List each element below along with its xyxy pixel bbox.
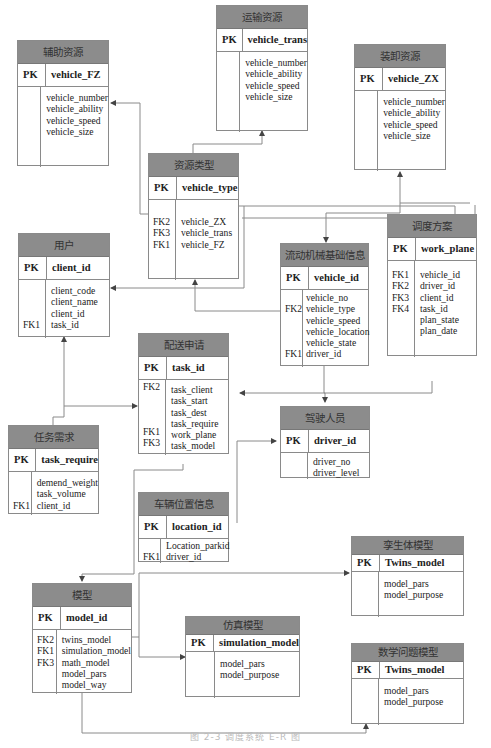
attribute: vehicle_ability (46, 103, 108, 114)
pk-label: PK (217, 29, 243, 51)
attribute: vehicle_size (383, 130, 445, 141)
attribute: twins_model (62, 634, 131, 645)
entity-delivery-request[interactable]: 配送申请 PK task_id FK2 FK1 FK3 task_client … (138, 333, 229, 454)
primary-key-row: PK vehicle_id (281, 267, 368, 290)
key-column (352, 679, 379, 725)
pk-label: PK (149, 177, 177, 199)
pk-label: PK (355, 68, 383, 90)
key-column (186, 652, 215, 698)
attribute-list: task_client task_start task_dest task_re… (166, 380, 218, 455)
attribute: vehicle_speed (245, 80, 307, 91)
entity-vehicle-location[interactable]: 车辆位置信息 PK location_id FK1 Location_parki… (138, 492, 229, 562)
attribute: client_id (420, 292, 460, 303)
entity-task-requirement[interactable]: 任务需求 PK task_require FK1 demend_weight t… (8, 425, 99, 514)
key-column (281, 453, 308, 479)
attribute: vehicle_speed (306, 315, 369, 326)
attribute: client_id (51, 308, 98, 319)
attribute: client_id (37, 500, 98, 511)
attribute-section: vehicle_number vehicle_ability vehicle_s… (18, 87, 108, 167)
pk-name: vehicle_id (309, 267, 359, 289)
entity-simulation-model[interactable]: 仿真模型 PK simulation_model model_pars mode… (185, 616, 300, 697)
entity-title: 调度方案 (388, 215, 476, 238)
attribute-list: vehicle_number vehicle_ability vehicle_s… (240, 52, 307, 132)
primary-key-row: PK model_id (33, 607, 131, 630)
attribute: task_require (171, 418, 218, 429)
attribute-list: Location_parkid driver_id (161, 539, 229, 563)
attribute-list: vehicle_ZX vehicle_trans vehicle_FZ (176, 200, 232, 280)
key-column: FK2 FK1 (281, 290, 303, 367)
key-label: FK2 (153, 216, 175, 227)
attribute-list: client_code client_name client_id task_i… (46, 280, 98, 338)
entity-scheduling-plan[interactable]: 调度方案 PK work_plane FK1 FK2 FK3 FK4 vehic… (387, 214, 477, 356)
pk-name: model_id (61, 607, 107, 629)
entity-transport-resource[interactable]: 运输资源 PK vehicle_trans vehicle_number veh… (216, 5, 308, 131)
primary-key-row: PK task_require (9, 449, 98, 472)
entity-client[interactable]: 用户 PK client_id FK1 client_code client_n… (18, 233, 110, 337)
primary-key-row: PK work_plane (388, 238, 476, 261)
key-column (352, 572, 379, 617)
attribute: task_start (171, 395, 218, 406)
pk-label: PK (281, 430, 309, 452)
key-label: FK3 (143, 437, 165, 448)
key-column: FK2 FK3 FK1 (149, 200, 176, 280)
attribute-list: vehicle_no vehicle_type vehicle_speed ve… (303, 290, 369, 367)
primary-key-row: PK location_id (139, 516, 228, 539)
entity-title: 资源类型 (149, 154, 238, 177)
attribute: driver_id (306, 348, 369, 359)
entity-resource-type[interactable]: 资源类型 PK vehicle_type FK2 FK3 FK1 vehicle… (148, 153, 239, 279)
key-column: FK1 (19, 280, 46, 338)
key-label: FK2 (37, 634, 56, 645)
attribute: vehicle_location (306, 326, 369, 337)
key-label: FK3 (153, 227, 175, 238)
attribute: vehicle_size (245, 91, 307, 102)
primary-key-row: PK vehicle_ZX (355, 68, 445, 91)
primary-key-row: PK task_id (139, 357, 228, 380)
entity-loading-resource[interactable]: 装卸资源 PK vehicle_ZX vehicle_number vehicl… (354, 44, 446, 170)
attribute-list: vehicle_number vehicle_ability vehicle_s… (41, 87, 108, 167)
attribute-list: twins_model simulation_model math_model … (57, 630, 131, 694)
attribute-list: demend_weight task_volume client_id (32, 472, 98, 515)
key-column: FK1 FK2 FK3 FK4 (388, 261, 415, 357)
attribute: task_volume (37, 488, 98, 499)
entity-math-model[interactable]: 数学问题模型 PK Twins_model model_pars model_p… (351, 643, 464, 724)
pk-label: PK (388, 238, 416, 260)
pk-label: PK (352, 662, 380, 678)
key-label: FK1 (143, 551, 160, 562)
attribute: vehicle_speed (383, 119, 445, 130)
pk-name: vehicle_trans (243, 29, 308, 51)
entity-title: 用户 (19, 234, 109, 257)
pk-label: PK (33, 607, 61, 629)
attribute-list: model_pars model_purpose (215, 652, 279, 698)
pk-label: PK (352, 555, 380, 571)
key-label: FK3 (392, 292, 414, 303)
attribute: model_purpose (384, 696, 443, 707)
attribute-section: FK2 FK3 FK1 vehicle_ZX vehicle_trans veh… (149, 200, 238, 280)
figure-caption: 图 2-3 调度系统 E-R 图 (0, 730, 491, 743)
attribute: model_pars (384, 685, 443, 696)
entity-mobile-machinery[interactable]: 流动机械基础信息 PK vehicle_id FK2 FK1 vehicle_n… (280, 243, 369, 366)
pk-label: PK (139, 357, 167, 379)
attribute: vehicle_ability (383, 107, 445, 118)
attribute-section: FK1 Location_parkid driver_id (139, 539, 228, 563)
entity-driver[interactable]: 驾驶人员 PK driver_id driver_no driver_level (280, 406, 370, 478)
primary-key-row: PK Twins_model (352, 555, 463, 572)
attribute: math_model (62, 657, 131, 668)
primary-key-row: PK vehicle_type (149, 177, 238, 200)
entity-twins-model[interactable]: 孪生体模型 PK Twins_model model_pars model_pu… (351, 536, 464, 616)
entity-model[interactable]: 模型 PK model_id FK2 FK1 FK3 twins_model s… (32, 583, 132, 693)
attribute: Location_parkid (166, 540, 229, 551)
pk-label: PK (9, 449, 36, 471)
primary-key-row: PK client_id (19, 257, 109, 280)
pk-name: vehicle_FZ (46, 64, 101, 86)
pk-name: work_plane (416, 238, 474, 260)
attribute: driver_id (420, 280, 460, 291)
entity-auxiliary-resource[interactable]: 辅助资源 PK vehicle_FZ vehicle_number vehicl… (17, 40, 109, 166)
entity-title: 任务需求 (9, 426, 98, 449)
pk-label: PK (281, 267, 309, 289)
key-label: FK2 (285, 303, 302, 314)
attribute-list: vehicle_number vehicle_ability vehicle_s… (378, 91, 445, 171)
attribute-section: FK2 FK1 vehicle_no vehicle_type vehicle_… (281, 290, 368, 367)
attribute: task_model (171, 440, 218, 451)
attribute-list: driver_no driver_level (308, 453, 359, 479)
key-label: FK1 (37, 645, 56, 656)
